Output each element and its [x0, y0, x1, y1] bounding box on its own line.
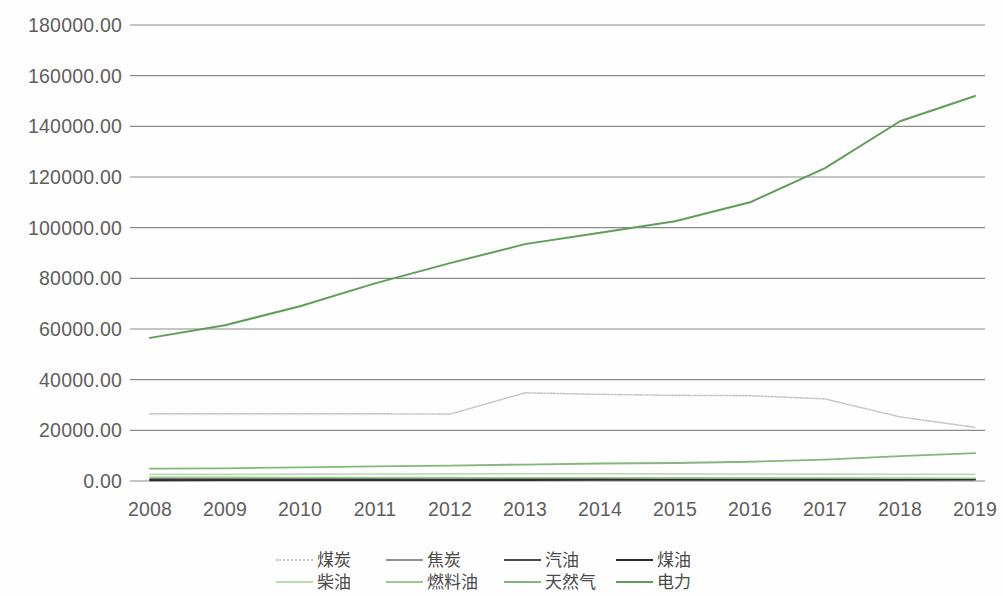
legend-item-0[interactable]: 煤炭: [276, 549, 386, 571]
x-tick-label: 2016: [728, 498, 772, 521]
gridlines: [130, 25, 985, 481]
plot-svg: [130, 14, 985, 484]
series-lines: [150, 96, 975, 480]
legend-label: 焦炭: [427, 552, 461, 569]
line-chart: 0.0020000.0040000.0060000.0080000.001000…: [0, 0, 1003, 596]
legend-swatch-icon: [386, 559, 423, 561]
x-tick-label: 2017: [803, 498, 847, 521]
x-tick-label: 2011: [354, 498, 397, 521]
series-line-3: [150, 480, 975, 481]
y-tick-label: 160000.00: [0, 64, 122, 87]
legend-item-1[interactable]: 焦炭: [386, 549, 504, 571]
x-tick-label: 2010: [278, 498, 322, 521]
y-tick-label: 0.00: [0, 470, 122, 493]
legend-label: 煤炭: [317, 552, 351, 569]
chart-legend: 煤炭焦炭汽油煤油柴油燃料油天然气电力: [276, 549, 736, 593]
series-line-6: [150, 453, 975, 468]
series-line-7: [150, 96, 975, 338]
legend-item-4[interactable]: 柴油: [276, 571, 386, 593]
y-tick-label: 120000.00: [0, 166, 122, 189]
legend-item-5[interactable]: 燃料油: [386, 571, 504, 593]
legend-label: 柴油: [317, 574, 351, 591]
y-tick-label: 60000.00: [0, 318, 122, 341]
legend-label: 电力: [657, 574, 691, 591]
legend-swatch-icon: [504, 581, 541, 583]
plot-area: [130, 14, 985, 484]
x-tick-label: 2015: [653, 498, 697, 521]
legend-item-3[interactable]: 煤油: [616, 549, 726, 571]
series-line-4: [150, 474, 975, 475]
series-line-0: [150, 393, 975, 427]
y-axis: 0.0020000.0040000.0060000.0080000.001000…: [0, 0, 122, 500]
x-axis: 2008200920102011201220132014201520162017…: [130, 498, 985, 532]
legend-label: 汽油: [545, 552, 579, 569]
legend-swatch-icon: [276, 559, 313, 561]
legend-item-6[interactable]: 天然气: [504, 571, 616, 593]
x-tick-label: 2019: [953, 498, 997, 521]
x-tick-label: 2018: [878, 498, 922, 521]
x-tick-label: 2009: [203, 498, 247, 521]
legend-item-2[interactable]: 汽油: [504, 549, 616, 571]
x-tick-label: 2008: [128, 498, 172, 521]
y-tick-label: 100000.00: [0, 216, 122, 239]
y-tick-label: 180000.00: [0, 14, 122, 37]
legend-label: 天然气: [545, 574, 596, 591]
y-tick-label: 80000.00: [0, 267, 122, 290]
x-tick-label: 2012: [428, 498, 472, 521]
legend-swatch-icon: [616, 559, 653, 561]
legend-label: 煤油: [657, 552, 691, 569]
legend-label: 燃料油: [427, 574, 478, 591]
legend-swatch-icon: [616, 581, 653, 583]
y-tick-label: 140000.00: [0, 115, 122, 138]
legend-item-7[interactable]: 电力: [616, 571, 726, 593]
x-tick-label: 2013: [503, 498, 547, 521]
x-tick-label: 2014: [578, 498, 622, 521]
y-tick-label: 20000.00: [0, 419, 122, 442]
series-line-5: [150, 477, 975, 478]
y-tick-label: 40000.00: [0, 368, 122, 391]
legend-swatch-icon: [276, 581, 313, 583]
legend-swatch-icon: [504, 559, 541, 561]
legend-swatch-icon: [386, 581, 423, 583]
